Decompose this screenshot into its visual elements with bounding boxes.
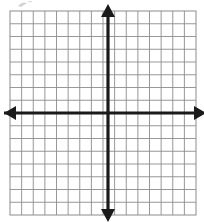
graph-figure bbox=[0, 0, 204, 222]
figure-background bbox=[0, 0, 204, 222]
coordinate-plane bbox=[0, 0, 204, 222]
